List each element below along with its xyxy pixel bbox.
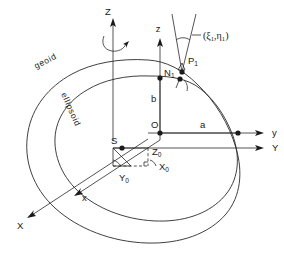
deflection-close-paren: ) — [225, 30, 228, 42]
x-axis-uppercase-line — [32, 139, 148, 215]
point-marker-ellipsoid-right — [235, 130, 240, 135]
point-marker-O — [157, 130, 162, 135]
x-axis-lowercase-label: x — [82, 192, 87, 203]
semi-major-axis-label: a — [200, 119, 206, 130]
shift-y0-label: Y0 — [119, 172, 129, 184]
diagram-canvas: geoid ellipsoid Z z Y y X x O S P1 N1 a … — [0, 0, 284, 253]
angle-arc-x0 — [150, 160, 156, 166]
deflection-angle-arc — [176, 38, 190, 40]
shift-z0-sub: 0 — [158, 151, 162, 158]
point-marker-ellipsoid-top — [157, 75, 162, 80]
plumb-line — [172, 14, 182, 72]
deflection-label: (ξ1,η1) — [203, 30, 228, 42]
point-marker-N1 — [177, 76, 182, 81]
point-label-N1: N1 — [164, 67, 175, 79]
point-label-N1-sub: 1 — [171, 72, 175, 79]
x-axis-uppercase-label: X — [17, 220, 24, 231]
point-label-S: S — [111, 135, 117, 146]
rotation-arrow-arc — [103, 36, 126, 51]
ellipsoid-label: ellipsoid — [59, 91, 83, 128]
semi-minor-axis-label: b — [151, 93, 156, 104]
y-axis-uppercase-label: Y — [272, 142, 279, 153]
angle-mark-at-S — [113, 148, 131, 166]
shift-y0-sub: 0 — [125, 177, 129, 184]
shift-x0-sub: 0 — [165, 166, 169, 173]
point-marker-S — [119, 145, 124, 150]
geoid-curve — [27, 60, 240, 243]
z-axis-lowercase-label: z — [156, 23, 161, 34]
x-axis-uppercase-arrowhead — [27, 210, 36, 218]
right-angle-mark — [144, 162, 148, 166]
z-axis-uppercase-label: Z — [105, 6, 111, 17]
point-marker-P1 — [179, 69, 184, 74]
y-axis-lowercase-label: y — [272, 127, 277, 138]
point-label-P1-sub: 1 — [194, 60, 198, 67]
point-label-P1: P1 — [188, 55, 198, 67]
point-label-O: O — [151, 119, 158, 130]
geodetic-diagram: geoid ellipsoid Z z Y y X x O S P1 N1 a … — [0, 0, 284, 253]
geoid-label: geoid — [32, 51, 58, 71]
shift-x0-label: X0 — [159, 161, 169, 173]
